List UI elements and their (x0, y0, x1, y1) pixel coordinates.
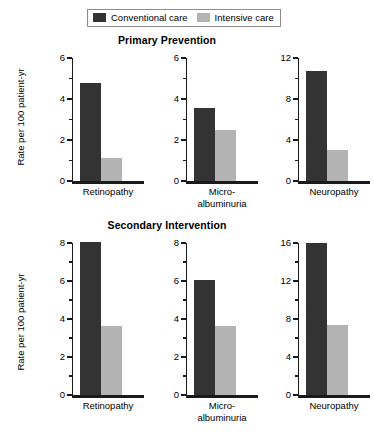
y-tick-label: 6 (38, 53, 65, 63)
y-tick-major (67, 280, 72, 281)
x-axis-baseline (72, 395, 144, 398)
y-tick-minor (69, 337, 73, 338)
category-label-line: albuminuria (164, 412, 280, 424)
y-tick-label: 8 (152, 238, 179, 248)
y-tick-minor (183, 78, 187, 79)
category-label-line: albuminuria (164, 198, 280, 210)
y-tick-minor (183, 299, 187, 300)
plot-area: 0481216 (298, 243, 370, 395)
y-tick-major (67, 394, 72, 395)
bar-intensive-care (327, 150, 348, 181)
x-axis-baseline (298, 395, 370, 398)
chart-panel-secondary-1: 02468Micro-albuminuria (186, 243, 258, 425)
y-tick-label: 0 (152, 176, 179, 186)
plot-area: 04812 (298, 58, 370, 181)
y-axis-line (186, 58, 187, 181)
y-tick-major (293, 356, 298, 357)
y-tick-label: 8 (264, 314, 291, 324)
y-tick-major (181, 318, 186, 319)
y-tick-label: 0 (264, 176, 291, 186)
y-tick-minor (183, 160, 187, 161)
y-tick-major (293, 57, 298, 58)
y-tick-major (181, 356, 186, 357)
legend-swatch-intensive-icon (197, 13, 210, 22)
bar-intensive-care (215, 130, 236, 181)
plot-area: 0246 (186, 58, 258, 181)
chart-panel-secondary-2: 0481216Neuropathy (298, 243, 370, 425)
y-axis-line (186, 243, 187, 395)
category-label: Neuropathy (276, 400, 374, 412)
plot-area: 0246 (72, 58, 144, 181)
y-axis-line (298, 58, 299, 181)
y-tick-minor (69, 160, 73, 161)
y-tick-label: 16 (264, 238, 291, 248)
y-tick-minor (69, 375, 73, 376)
y-tick-major (67, 180, 72, 181)
y-tick-minor (295, 160, 299, 161)
y-tick-major (181, 98, 186, 99)
x-axis-baseline (72, 181, 144, 184)
bar-conventional-care (80, 242, 101, 395)
y-tick-label: 2 (152, 352, 179, 362)
x-axis-baseline (186, 395, 258, 398)
y-tick-label: 4 (152, 94, 179, 104)
y-tick-label: 2 (38, 135, 65, 145)
y-tick-label: 0 (38, 390, 65, 400)
chart-panel-primary-1: 0246Micro-albuminuria (186, 58, 258, 211)
y-tick-minor (295, 375, 299, 376)
bar-conventional-care (194, 280, 215, 395)
y-tick-minor (183, 337, 187, 338)
category-label: Micro-albuminuria (164, 186, 280, 209)
bar-conventional-care (80, 83, 101, 181)
chart-panel-primary-2: 04812Neuropathy (298, 58, 370, 211)
category-label-line: Retinopathy (50, 400, 166, 412)
plot-area: 02468 (72, 243, 144, 395)
panel-row-primary: Rate per 100 patient-yr 0246Retinopathy0… (0, 50, 334, 210)
legend-entry-conventional: Conventional care (93, 12, 188, 23)
chart-panel-secondary-0: 02468Retinopathy (72, 243, 144, 425)
y-tick-major (181, 280, 186, 281)
y-tick-minor (183, 119, 187, 120)
y-tick-major (67, 139, 72, 140)
y-tick-label: 0 (152, 390, 179, 400)
y-tick-major (67, 242, 72, 243)
x-axis-baseline (298, 181, 370, 184)
y-tick-major (293, 242, 298, 243)
x-axis-baseline (186, 181, 258, 184)
category-label: Neuropathy (276, 186, 374, 198)
y-tick-label: 6 (152, 276, 179, 286)
legend-entry-intensive: Intensive care (197, 12, 274, 23)
y-tick-label: 4 (264, 352, 291, 362)
y-tick-major (293, 318, 298, 319)
y-tick-major (293, 394, 298, 395)
bar-conventional-care (194, 108, 215, 181)
y-tick-major (293, 180, 298, 181)
y-tick-major (181, 394, 186, 395)
category-label-line: Micro- (164, 186, 280, 198)
y-tick-minor (69, 299, 73, 300)
y-tick-label: 4 (38, 314, 65, 324)
y-tick-minor (295, 337, 299, 338)
chart-panel-primary-0: 0246Retinopathy (72, 58, 144, 211)
plot-area: 02468 (186, 243, 258, 395)
y-tick-label: 6 (38, 276, 65, 286)
bar-intensive-care (101, 158, 122, 181)
category-label-line: Retinopathy (50, 186, 166, 198)
y-tick-major (67, 98, 72, 99)
y-tick-minor (69, 78, 73, 79)
y-tick-major (293, 280, 298, 281)
legend-label-conventional: Conventional care (111, 12, 188, 23)
bar-conventional-care (306, 71, 327, 181)
bar-intensive-care (327, 325, 348, 395)
y-tick-minor (69, 261, 73, 262)
y-tick-major (293, 139, 298, 140)
y-tick-label: 0 (38, 176, 65, 186)
y-tick-label: 4 (152, 314, 179, 324)
section-title-secondary: Secondary Intervention (0, 219, 334, 231)
y-tick-label: 2 (152, 135, 179, 145)
bar-intensive-care (101, 326, 122, 395)
section-title-primary: Primary Prevention (0, 34, 334, 46)
y-axis-line (72, 58, 73, 181)
y-tick-minor (183, 375, 187, 376)
y-tick-major (181, 242, 186, 243)
